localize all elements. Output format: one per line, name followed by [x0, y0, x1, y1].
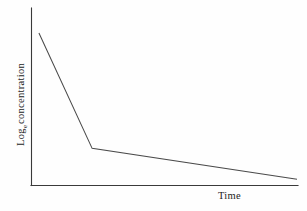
plot-background: [0, 0, 307, 211]
y-axis-title-main: Log: [15, 128, 26, 146]
y-axis-title-subscript: e: [21, 125, 29, 128]
x-axis-title: Time: [218, 190, 241, 201]
plot-area: Time Log e concentration: [0, 0, 307, 211]
figure-container: Time Log e concentration: [0, 0, 307, 211]
y-axis-title-rest: concentration: [15, 63, 26, 124]
